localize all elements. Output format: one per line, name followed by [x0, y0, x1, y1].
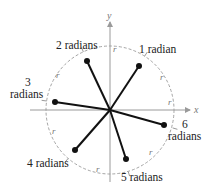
x-axis-label: x — [193, 104, 199, 115]
svg-text:r: r — [160, 72, 164, 82]
point-5-radians — [123, 156, 129, 162]
svg-text:r: r — [168, 97, 172, 107]
svg-text:r: r — [113, 44, 117, 54]
label-6-radians-line2: radians — [168, 130, 202, 142]
svg-text:r: r — [96, 164, 100, 174]
label-3-radians-line1: 3 — [25, 76, 31, 88]
label-1-radian: 1 radian — [139, 43, 177, 55]
label-4-radians: 4 radians — [27, 157, 69, 169]
spoke-2-radians — [87, 61, 110, 110]
y-axis-label: y — [106, 10, 112, 21]
svg-text:r: r — [52, 126, 56, 136]
point-4-radians — [72, 147, 78, 153]
spoke-6-radians — [110, 110, 164, 125]
svg-text:r: r — [56, 70, 60, 80]
point-3-radians — [52, 99, 58, 105]
label-5-radians: 5 radians — [121, 171, 163, 183]
label-3-radians-line2: radians — [10, 88, 44, 100]
svg-text:r: r — [149, 147, 153, 157]
point-2-radians — [84, 58, 90, 64]
arc-r-labels: r r r r r r r — [52, 44, 172, 174]
spoke-1-radian — [110, 66, 139, 110]
spoke-4-radians — [75, 110, 110, 150]
radians-diagram: x y r r r r r r r 1 radian 2 r — [0, 0, 212, 192]
label-6-radians-line1: 6 — [182, 118, 188, 130]
spoke-3-radians — [55, 102, 110, 110]
point-6-radians — [161, 122, 167, 128]
point-1-radian — [136, 63, 142, 69]
spoke-5-radians — [110, 110, 126, 159]
label-2-radians: 2 radians — [56, 39, 98, 51]
